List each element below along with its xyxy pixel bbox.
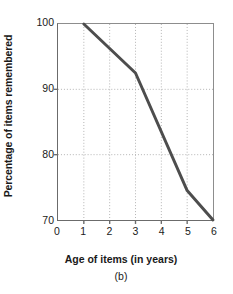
y-tick-label: 100 [14,17,54,28]
y-tick-label: 70 [14,215,54,226]
plot-area [57,23,214,221]
x-tick-label: 6 [204,226,224,237]
y-axis-tick-labels: 708090100 [10,0,54,294]
chart-figure: Percentage of items remembered 708090100… [0,0,233,294]
y-tick-label: 80 [14,149,54,160]
x-tick-label: 5 [178,226,198,237]
data-line [84,24,213,220]
x-tick-label: 4 [152,226,172,237]
data-line-series [58,24,213,220]
figure-caption: (b) [16,270,226,282]
x-tick-label: 0 [47,226,67,237]
x-tick-label: 2 [99,226,119,237]
x-tick-label: 1 [73,226,93,237]
x-axis-title: Age of items (in years) [16,253,226,265]
x-tick-label: 3 [126,226,146,237]
x-axis-tick-labels: 0123456 [57,226,233,240]
y-tick-label: 90 [14,83,54,94]
